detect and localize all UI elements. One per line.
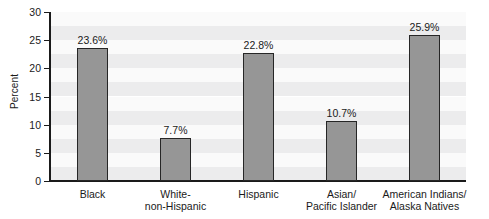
bars-layer: 23.6%7.7%22.8%10.7%25.9% [51,12,466,181]
bar-value-label: 22.8% [229,40,289,51]
y-tick-label: 10 [19,120,41,131]
x-axis-category-labels: BlackWhite-non-HispanicHispanicAsian/Pac… [51,188,466,218]
y-tick-label: 25 [19,35,41,46]
category-label-line1: American Indians/ [382,188,466,200]
bar-value-label: 10.7% [312,108,372,119]
y-axis-title: Percent [9,62,20,122]
bar-chart: Percent 051015202530 23.6%7.7%22.8%10.7%… [0,0,489,219]
category-label: American Indians/Alaska Natives [365,188,485,212]
y-tick-label: 5 [19,148,41,159]
bar [160,138,191,181]
category-label-line1: Hispanic [238,188,278,200]
category-label-line2: Alaska Natives [365,200,485,212]
category-label-line1: Black [80,188,106,200]
y-tick-label: 15 [19,92,41,103]
category-label-line2: non-Hispanic [116,200,236,212]
category-label-line1: White- [160,188,190,200]
y-tick-label: 30 [19,7,41,18]
bar-value-label: 25.9% [395,22,455,33]
y-tick-label: 0 [19,176,41,187]
bar [326,121,357,181]
y-tick-label: 20 [19,63,41,74]
bar-value-label: 23.6% [63,35,123,46]
bar [409,35,440,181]
category-label-line1: Asian/ [327,188,356,200]
bar [77,48,108,181]
bar [243,53,274,181]
bar-value-label: 7.7% [146,125,206,136]
